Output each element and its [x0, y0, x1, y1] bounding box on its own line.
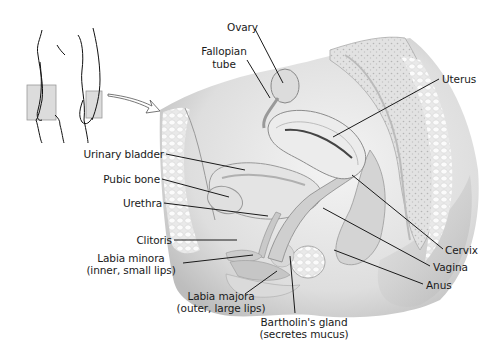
label-fallopian-tube-line2: tube	[200, 58, 248, 70]
label-labia-majora-line2: (outer, large lips)	[170, 302, 272, 314]
label-uterus: Uterus	[442, 73, 476, 85]
label-labia-majora-line1: Labia majora	[170, 290, 272, 302]
label-urinary-bladder: Urinary bladder	[60, 148, 164, 160]
label-fallopian-tube-line1: Fallopian	[200, 45, 248, 57]
label-urethra: Urethra	[60, 197, 162, 209]
label-bartholins-gland-line2: (secretes mucus)	[252, 328, 356, 340]
label-ovary: Ovary	[227, 21, 258, 33]
label-labia-minora-line2: (inner, small lips)	[80, 264, 182, 276]
anatomy-diagram: Ovary Fallopian tube Uterus Urinary blad…	[0, 0, 493, 352]
label-clitoris: Clitoris	[60, 234, 172, 246]
arrow-icon	[108, 94, 160, 113]
label-bartholins-gland-line1: Bartholin's gland	[252, 316, 356, 328]
label-cervix: Cervix	[445, 244, 478, 256]
label-anus: Anus	[426, 279, 452, 291]
inset-figure	[27, 28, 102, 143]
label-pubic-bone: Pubic bone	[60, 173, 160, 185]
label-vagina: Vagina	[433, 261, 468, 273]
label-labia-minora-line1: Labia minora	[80, 252, 182, 264]
pelvic-section	[160, 37, 479, 317]
